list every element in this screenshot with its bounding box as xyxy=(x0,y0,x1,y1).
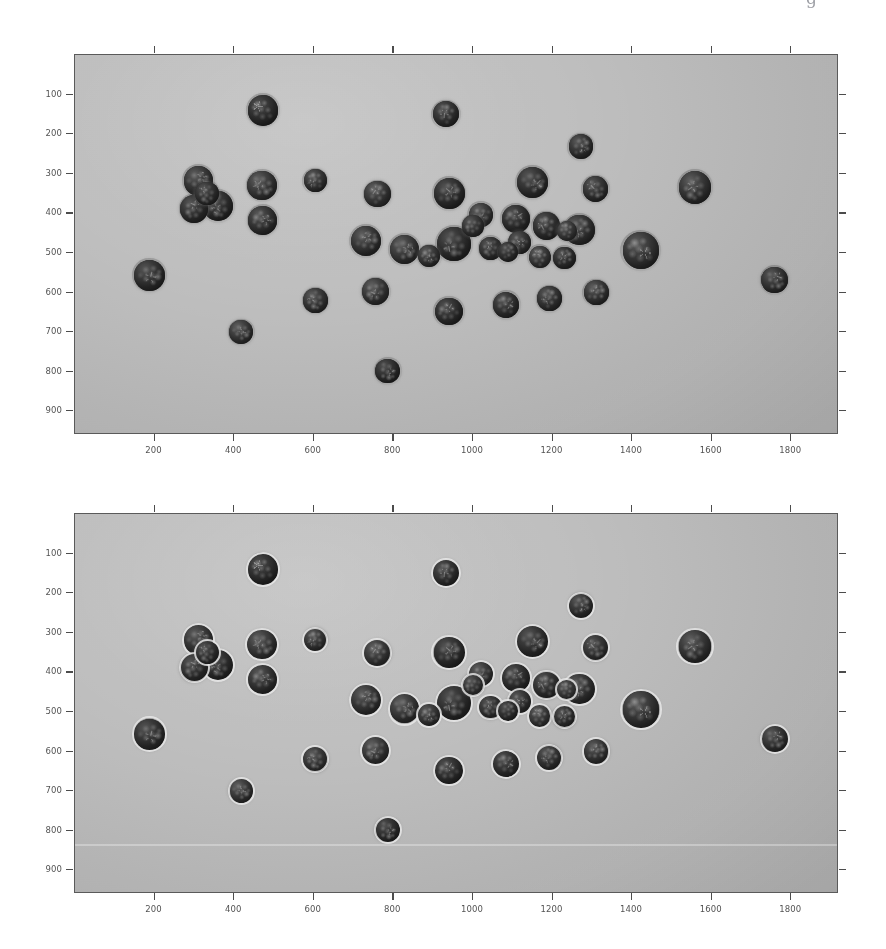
x-axis-tick-label: 1600 xyxy=(700,904,722,914)
y-axis-tick-label: 700 xyxy=(30,785,62,795)
detected-blueberry xyxy=(375,818,400,843)
y-axis-tick xyxy=(66,410,73,411)
blueberry xyxy=(502,205,530,233)
berry-calyx-star xyxy=(532,250,540,258)
y-axis-tick-right xyxy=(839,592,846,593)
detected-blueberry xyxy=(303,747,328,772)
detection-contour-circle xyxy=(431,635,466,670)
detected-blueberry xyxy=(569,593,594,618)
y-axis-tick-label: 900 xyxy=(30,405,62,415)
x-axis-tick xyxy=(472,893,473,900)
detected-blueberry xyxy=(195,641,219,665)
y-axis-tick-label: 200 xyxy=(30,128,62,138)
detected-blueberry xyxy=(229,779,253,803)
y-axis-tick-label: 100 xyxy=(30,548,62,558)
blueberry xyxy=(364,181,390,207)
y-axis-tick xyxy=(66,371,73,372)
blueberry xyxy=(584,280,609,305)
detection-contour-circle xyxy=(302,627,328,653)
x-axis-tick xyxy=(392,434,393,441)
detected-blueberry xyxy=(248,554,278,584)
y-axis-tick-right xyxy=(839,371,846,372)
detection-contour-circle xyxy=(246,552,280,586)
x-axis-tick-top xyxy=(313,505,314,512)
x-axis-tick xyxy=(711,434,712,441)
x-axis-tick-label: 1000 xyxy=(461,445,483,455)
detected-blueberry xyxy=(679,630,712,663)
y-axis-tick xyxy=(66,830,73,831)
x-axis-tick xyxy=(313,434,314,441)
detection-contour-circle xyxy=(527,703,552,728)
detected-blueberry xyxy=(623,691,660,728)
detection-contour-circle xyxy=(582,737,610,765)
x-axis-tick-top xyxy=(552,46,553,53)
x-axis-tick-label: 600 xyxy=(304,445,321,455)
blueberry xyxy=(304,169,327,192)
detected-blueberry xyxy=(537,745,562,770)
y-axis-tick-right xyxy=(839,252,846,253)
x-axis-tick-label: 800 xyxy=(384,445,401,455)
y-axis-tick xyxy=(66,292,73,293)
x-axis-tick xyxy=(392,893,393,900)
y-axis-tick xyxy=(66,212,73,213)
blueberry xyxy=(248,206,277,235)
x-axis-tick xyxy=(472,434,473,441)
blueberry xyxy=(498,242,519,263)
x-axis-tick-top xyxy=(472,505,473,512)
y-axis-tick-right xyxy=(839,410,846,411)
y-axis-tick-label: 300 xyxy=(30,627,62,637)
blueberry xyxy=(229,320,253,344)
y-axis-tick-right xyxy=(839,671,846,672)
x-axis-tick-label: 600 xyxy=(304,904,321,914)
y-axis-tick xyxy=(66,133,73,134)
x-axis-tick-top xyxy=(233,46,234,53)
x-axis-tick-top xyxy=(790,46,791,53)
y-axis-tick-right xyxy=(839,331,846,332)
x-axis-tick-label: 1400 xyxy=(620,445,642,455)
y-axis-tick-right xyxy=(839,869,846,870)
x-axis-tick xyxy=(631,893,632,900)
y-axis-tick xyxy=(66,869,73,870)
detected-blueberry xyxy=(364,640,390,666)
detection-contour-circle xyxy=(433,755,465,787)
x-axis-tick-label: 400 xyxy=(225,904,242,914)
y-axis-tick-right xyxy=(839,751,846,752)
y-axis-tick-label: 400 xyxy=(30,666,62,676)
blueberry xyxy=(134,260,165,291)
x-axis-tick-top xyxy=(552,505,553,512)
x-axis-tick xyxy=(631,434,632,441)
detected-blueberry xyxy=(462,674,483,695)
blueberry xyxy=(533,212,560,239)
cut-off-caption-remnant: g xyxy=(0,0,886,22)
y-axis-tick xyxy=(66,94,73,95)
x-axis-tick-label: 1600 xyxy=(700,445,722,455)
blueberry xyxy=(583,176,608,201)
detection-contour-circle xyxy=(246,663,279,696)
y-axis-tick-label: 200 xyxy=(30,587,62,597)
blueberry xyxy=(375,359,400,384)
detection-contour-circle xyxy=(132,716,167,751)
detected-blueberry xyxy=(517,626,548,657)
y-axis-tick-right xyxy=(839,94,846,95)
x-axis-tick-top xyxy=(790,505,791,512)
detected-blueberry xyxy=(553,706,575,728)
x-axis-tick-top xyxy=(233,505,234,512)
blueberry xyxy=(462,215,483,236)
y-axis-tick-right xyxy=(839,632,846,633)
detection-contour-circle xyxy=(362,638,392,668)
detection-contour-circle xyxy=(228,777,255,804)
y-axis-tick xyxy=(66,592,73,593)
scanner-streak-artifact xyxy=(75,844,837,846)
y-axis-tick xyxy=(66,711,73,712)
blueberry xyxy=(351,226,381,256)
x-axis-tick-label: 200 xyxy=(145,445,162,455)
x-axis-tick xyxy=(154,434,155,441)
y-axis-tick-label: 300 xyxy=(30,168,62,178)
x-axis-tick xyxy=(790,893,791,900)
x-axis-tick xyxy=(233,434,234,441)
x-axis-tick xyxy=(154,893,155,900)
y-axis-tick-right xyxy=(839,212,846,213)
x-axis-tick-label: 1000 xyxy=(461,904,483,914)
x-axis-tick-top xyxy=(154,505,155,512)
detection-contour-circle xyxy=(416,702,441,727)
